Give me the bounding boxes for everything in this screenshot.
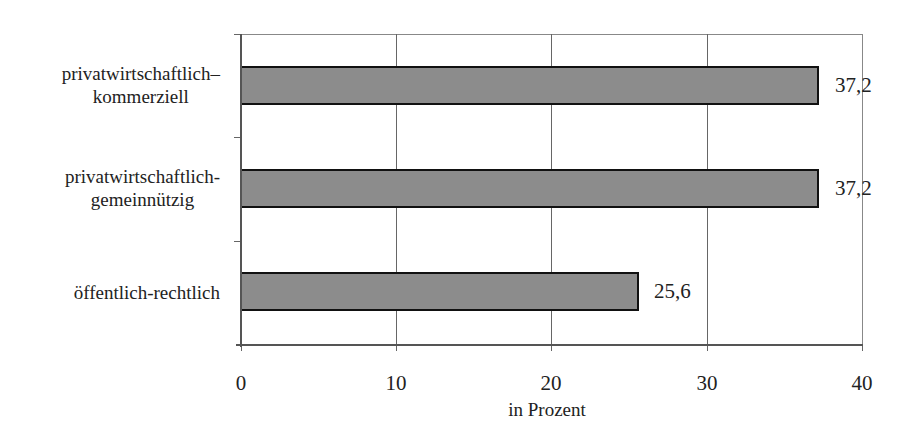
x-tick-label: 0 (211, 371, 271, 396)
y-axis (240, 34, 242, 347)
value-label: 25,6 (654, 279, 691, 304)
x-tick-label: 30 (677, 371, 737, 396)
bar-privat-kommerziell (241, 66, 819, 105)
value-label: 37,2 (835, 176, 872, 201)
x-axis-title: in Prozent (472, 399, 622, 421)
x-tick-label: 40 (832, 371, 892, 396)
value-label: 37,2 (835, 73, 872, 98)
bar-privat-gemeinnuetzig (241, 169, 819, 208)
bar-oeffentlich-rechtlich (241, 272, 639, 311)
x-axis (236, 344, 863, 346)
category-label: öffentlich-rechtlich (74, 281, 220, 304)
category-label: privatwirtschaftlich– kommerziell (62, 62, 220, 108)
category-label: privatwirtschaftlich- gemeinnützig (65, 165, 220, 211)
x-tick-label: 10 (366, 371, 426, 396)
x-tick-label: 20 (521, 371, 581, 396)
